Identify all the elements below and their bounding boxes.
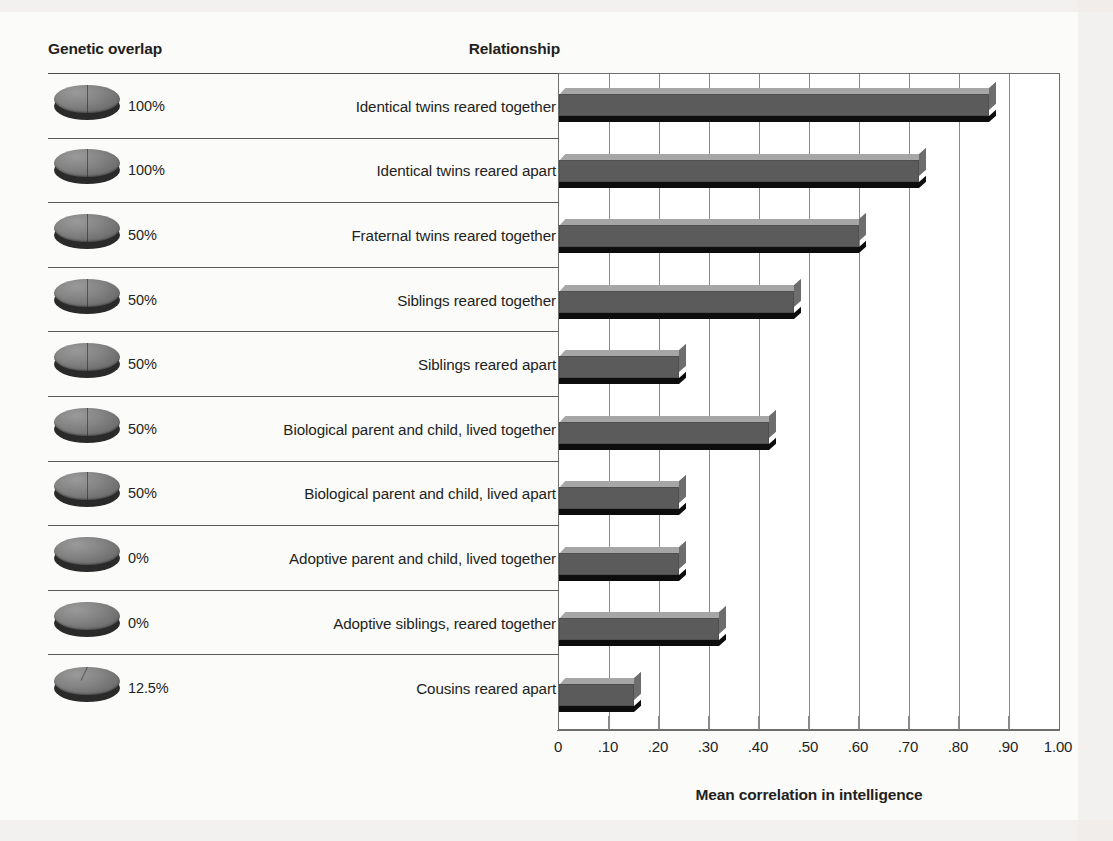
- x-tick: [858, 716, 859, 730]
- x-tick: [758, 716, 759, 730]
- relationship-label: Cousins reared apart: [416, 679, 556, 696]
- bar-rightface: [769, 409, 776, 437]
- disc-top: [54, 667, 120, 695]
- bar-underside-tip: [679, 503, 686, 515]
- genetic-overlap-value: 50%: [128, 421, 157, 437]
- x-tick-label: .60: [848, 738, 868, 755]
- disc-top: [54, 214, 120, 242]
- relationship-label: Biological parent and child, lived toget…: [283, 420, 556, 437]
- genetic-overlap-header: Genetic overlap: [48, 40, 162, 58]
- bar: [559, 547, 679, 575]
- genetic-disc-icon: [52, 83, 126, 129]
- scan-artifact: [0, 0, 1113, 12]
- disc-body: [52, 83, 122, 121]
- genetic-disc-icon: [52, 406, 126, 452]
- disc-division-line: [87, 279, 88, 307]
- relationship-table: 100%Identical twins reared together100%I…: [48, 73, 560, 720]
- bar-underside: [559, 247, 859, 253]
- bar-rightface: [634, 671, 641, 699]
- disc-body: [52, 212, 122, 250]
- bar-face: [559, 356, 679, 378]
- disc-division-line: [87, 408, 88, 436]
- bar-underside-tip: [794, 306, 801, 318]
- x-tick: [608, 716, 609, 730]
- disc-top: [54, 279, 120, 307]
- bar: [559, 612, 719, 640]
- relationship-label: Adoptive parent and child, lived togethe…: [289, 549, 556, 566]
- bar-underside-tip: [679, 372, 686, 384]
- disc-division-line: [81, 667, 88, 680]
- x-tick: [708, 716, 709, 730]
- bar-face: [559, 225, 859, 247]
- genetic-overlap-value: 12.5%: [128, 680, 169, 696]
- bar-rightface: [989, 82, 996, 110]
- bar-underside: [559, 706, 634, 712]
- relationship-label: Identical twins reared apart: [376, 162, 556, 179]
- genetic-disc-icon: [52, 341, 126, 387]
- x-tick-label: .90: [998, 738, 1018, 755]
- bar-row: [559, 205, 1059, 271]
- genetic-overlap-value: 50%: [128, 292, 157, 308]
- disc-body: [52, 277, 122, 315]
- bar-row: [559, 598, 1059, 664]
- bar-underside-tip: [989, 110, 996, 122]
- bar-underside: [559, 378, 679, 384]
- disc-top: [54, 343, 120, 371]
- bar-underside-tip: [634, 699, 641, 711]
- bar-rightface: [859, 213, 866, 241]
- x-axis-title: Mean correlation in intelligence: [558, 786, 1060, 804]
- table-row: 12.5%Cousins reared apart: [48, 655, 560, 720]
- disc-body: [52, 406, 122, 444]
- bar-row: [559, 74, 1059, 140]
- bar-underside: [559, 313, 794, 319]
- disc-top: [54, 602, 120, 630]
- column-headers: Genetic overlap Relationship: [48, 40, 560, 68]
- relationship-label: Biological parent and child, lived apart: [304, 485, 556, 502]
- disc-body: [52, 600, 122, 638]
- disc-body: [52, 470, 122, 508]
- genetic-overlap-value: 50%: [128, 356, 157, 372]
- bar-face: [559, 291, 794, 313]
- table-row: 50%Siblings reared apart: [48, 332, 560, 397]
- bar-face: [559, 160, 919, 182]
- bar-rightface: [679, 475, 686, 503]
- bar-face: [559, 553, 679, 575]
- bar-rightface: [794, 278, 801, 306]
- genetic-disc-icon: [52, 470, 126, 516]
- bar-row: [559, 402, 1059, 468]
- table-row: 50%Biological parent and child, lived ap…: [48, 462, 560, 527]
- x-tick-label: 1.00: [1044, 738, 1072, 755]
- x-tick-label: .20: [648, 738, 668, 755]
- genetic-overlap-value: 100%: [128, 162, 165, 178]
- x-tick-label: .50: [798, 738, 818, 755]
- genetic-disc-icon: [52, 665, 126, 711]
- bar-rightface: [679, 344, 686, 372]
- table-row: 50%Fraternal twins reared together: [48, 203, 560, 268]
- genetic-disc-icon: [52, 277, 126, 323]
- bar-face: [559, 487, 679, 509]
- genetic-disc-icon: [52, 212, 126, 258]
- bar-underside: [559, 444, 769, 450]
- relationship-label: Siblings reared together: [397, 291, 556, 308]
- bar: [559, 154, 919, 182]
- relationship-header: Relationship: [469, 40, 560, 58]
- bar: [559, 481, 679, 509]
- disc-division-line: [87, 343, 88, 371]
- bar-row: [559, 271, 1059, 337]
- bar: [559, 219, 859, 247]
- x-tick-label: .10: [598, 738, 618, 755]
- table-row: 50%Siblings reared together: [48, 268, 560, 333]
- relationship-label: Adoptive siblings, reared together: [333, 614, 556, 631]
- x-tick: [1008, 716, 1009, 730]
- disc-top: [54, 149, 120, 177]
- bar-row: [559, 533, 1059, 599]
- bar-row: [559, 140, 1059, 206]
- table-row: 0%Adoptive parent and child, lived toget…: [48, 526, 560, 591]
- x-tick-label: .80: [948, 738, 968, 755]
- relationship-label: Identical twins reared together: [356, 97, 556, 114]
- table-row: 50%Biological parent and child, lived to…: [48, 397, 560, 462]
- disc-top: [54, 537, 120, 565]
- disc-division-line: [87, 85, 88, 113]
- disc-division-line: [87, 472, 88, 500]
- scan-artifact: [0, 820, 1113, 841]
